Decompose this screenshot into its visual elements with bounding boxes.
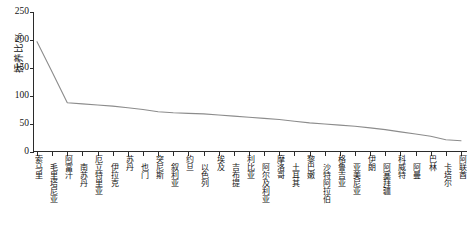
x-tick-label: 黎巴嫩 (306, 155, 314, 179)
x-axis-category-labels: 索马里毛里塔尼亚阿富汗南苏丹厄立特里亚伊拉克苏丹也门突尼斯叙利亚约旦以色列埃及吉… (33, 155, 467, 225)
x-tick-label: 摩洛哥 (275, 155, 283, 179)
x-tick-label: 阿联酋 (457, 155, 465, 179)
plot-area (33, 12, 467, 152)
y-axis-tick-labels: 050100150200250 (3, 0, 29, 225)
x-tick-label: 吉布提 (230, 163, 238, 187)
x-tick-label: 亚美尼亚 (351, 163, 359, 195)
x-tick-label: 伊拉克 (109, 163, 117, 187)
x-tick-label: 格鲁吉亚 (336, 155, 344, 187)
x-tick-label: 阿塞拜疆 (381, 163, 389, 195)
y-tick-label: 100 (3, 91, 29, 101)
x-tick-label: 以色列 (200, 163, 208, 187)
x-tick-label: 土耳其 (290, 163, 298, 187)
x-tick-label: 厄立特里亚 (94, 155, 102, 195)
x-tick-label: 阿尔及利亚 (260, 163, 268, 203)
x-tick-label: 毛里塔尼亚 (48, 163, 56, 203)
x-tick-label: 卡塔尔 (442, 163, 450, 187)
y-tick-label: 150 (3, 63, 29, 73)
x-tick-label: 叙利亚 (169, 163, 177, 187)
y-tick-label: 200 (3, 35, 29, 45)
series-line-dependency-ratio (33, 12, 467, 152)
x-tick-label: 索马里 (33, 155, 41, 179)
chart-container: 抚养比/% 050100150200250 索马里毛里塔尼亚阿富汗南苏丹厄立特里… (0, 0, 469, 225)
x-tick-label: 苏丹 (124, 155, 132, 171)
y-tick-label: 250 (3, 7, 29, 17)
y-tick-mark (30, 152, 34, 153)
y-tick-label: 50 (3, 119, 29, 129)
x-tick-label: 南苏丹 (78, 163, 86, 187)
x-tick-label: 阿曼 (412, 163, 420, 179)
x-tick-label: 沙特阿拉伯 (321, 163, 329, 203)
x-tick-label: 利比亚 (245, 155, 253, 179)
x-tick-label: 埃及 (215, 155, 223, 171)
x-tick-label: 巴林 (427, 155, 435, 171)
x-tick-label: 约旦 (184, 155, 192, 171)
x-tick-label: 阿富汗 (63, 155, 71, 179)
x-tick-label: 科威特 (396, 155, 404, 179)
x-tick-label: 也门 (139, 163, 147, 179)
y-tick-label: 0 (3, 147, 29, 157)
x-tick-label: 突尼斯 (154, 155, 162, 179)
x-tick-label: 伊朗 (366, 155, 374, 171)
